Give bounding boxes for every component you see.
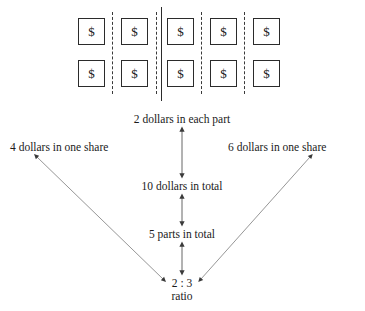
label-total-dollars: 10 dollars in total: [142, 180, 223, 194]
money-square: $: [78, 18, 105, 45]
dollar-icon: $: [263, 25, 270, 38]
money-square: $: [167, 60, 194, 87]
arrow-right-share-to-ratio: [201, 157, 310, 279]
dollar-icon: $: [131, 25, 138, 38]
part-divider-dashed: [112, 12, 113, 94]
dollar-icon: $: [131, 67, 138, 80]
dollar-icon: $: [88, 67, 95, 80]
money-square: $: [121, 18, 148, 45]
part-divider-dashed: [156, 12, 157, 94]
ratio-diagram: $ $ $ $ $ $ $ $ $ $: [0, 0, 365, 311]
money-grid: $ $ $ $ $ $ $ $ $ $: [78, 18, 278, 88]
dollar-icon: $: [88, 25, 95, 38]
label-ratio-word: ratio: [171, 290, 192, 304]
money-square: $: [210, 18, 237, 45]
share-divider-solid: [161, 7, 162, 101]
label-ratio-value: 2 : 3: [172, 277, 192, 291]
money-square: $: [253, 18, 280, 45]
money-square: $: [167, 18, 194, 45]
dollar-icon: $: [263, 67, 270, 80]
money-square: $: [210, 60, 237, 87]
label-each-part: 2 dollars in each part: [134, 113, 230, 127]
money-square: $: [121, 60, 148, 87]
money-square: $: [253, 60, 280, 87]
dollar-icon: $: [177, 67, 184, 80]
part-divider-dashed: [244, 12, 245, 94]
arrow-left-share-to-ratio: [37, 157, 163, 279]
label-total-parts: 5 parts in total: [149, 228, 215, 242]
label-left-share: 4 dollars in one share: [10, 141, 108, 155]
dollar-icon: $: [220, 67, 227, 80]
dollar-icon: $: [220, 25, 227, 38]
dollar-icon: $: [177, 25, 184, 38]
label-right-share: 6 dollars in one share: [228, 141, 326, 155]
part-divider-dashed: [201, 12, 202, 94]
money-square: $: [78, 60, 105, 87]
